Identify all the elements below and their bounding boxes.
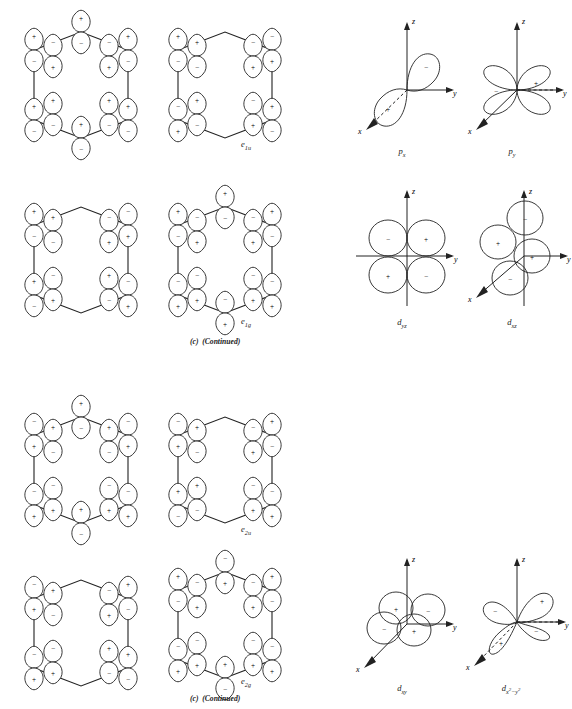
svg-text:+: + — [195, 39, 199, 47]
p-orbital-upper-right-outer: + − — [263, 203, 281, 247]
svg-text:−: − — [32, 651, 36, 659]
svg-text:+: + — [176, 668, 180, 676]
ao-label-py: py — [482, 146, 542, 158]
svg-text:−: − — [251, 579, 255, 587]
svg-text:+: + — [176, 128, 180, 136]
svg-text:−: − — [223, 555, 227, 563]
svg-text:+: + — [176, 33, 180, 41]
svg-text:+: + — [32, 606, 36, 614]
p-orbital-bottom: + − — [72, 501, 90, 545]
axis-label-z: z — [411, 17, 416, 26]
svg-text:+: + — [223, 661, 227, 669]
svg-text:+: + — [270, 573, 274, 581]
svg-text:+: + — [251, 449, 255, 457]
p-orbital-lower-right-outer: − + — [263, 273, 281, 317]
p-orbital-upper-right-inner: − + — [244, 574, 262, 618]
svg-text:−: − — [32, 303, 36, 311]
svg-text:+: + — [32, 33, 36, 41]
svg-text:−: − — [508, 276, 512, 284]
axis-label-y: y — [452, 89, 457, 98]
svg-text:−: − — [107, 449, 111, 457]
svg-text:−: − — [107, 587, 111, 595]
svg-text:−: − — [51, 122, 55, 130]
p-orbital-upper-right-inner: − + — [100, 582, 118, 626]
p-orbital-lower-right-outer: − + — [119, 273, 137, 317]
svg-text:−: − — [126, 676, 130, 684]
axis-label-z: z — [521, 17, 526, 26]
svg-text:−: − — [51, 272, 55, 280]
svg-text:+: + — [386, 273, 390, 281]
svg-text:+: + — [534, 80, 538, 88]
svg-text:+: + — [223, 580, 227, 588]
p-orbital-upper-left-inner: + − — [44, 209, 62, 253]
axis-label-z: z — [521, 555, 526, 564]
p-orbital-lower-left-outer: + − — [25, 98, 43, 142]
p-orbital-upper-right-outer: − + — [119, 203, 137, 247]
svg-text:+: + — [540, 598, 544, 606]
svg-text:+: + — [270, 418, 274, 426]
axis-label-x: x — [465, 663, 470, 672]
svg-text:−: − — [126, 58, 130, 66]
svg-text:+: + — [176, 573, 180, 581]
ao-label-dyz: dyz — [372, 317, 432, 329]
p-orbital-lower-right-outer: + − — [263, 98, 281, 142]
svg-text:−: − — [251, 214, 255, 222]
p-orbital-upper-right-outer: + − — [263, 413, 281, 457]
p-orbital-lower-left-inner: + − — [188, 92, 206, 136]
svg-text:−: − — [32, 488, 36, 496]
p-orbital-top: + − — [216, 185, 234, 229]
svg-text:−: − — [107, 297, 111, 305]
svg-text:−: − — [534, 628, 538, 636]
svg-text:−: − — [51, 645, 55, 653]
svg-text:−: − — [195, 637, 199, 645]
p-orbital-upper-right-inner: − + — [244, 209, 262, 253]
svg-text:+: + — [126, 651, 130, 659]
svg-text:+: + — [223, 190, 227, 198]
svg-text:−: − — [426, 608, 430, 616]
p-orbital-upper-left-inner: − + — [188, 209, 206, 253]
svg-text:−: − — [107, 214, 111, 222]
svg-text:+: + — [107, 239, 111, 247]
svg-text:−: − — [126, 208, 130, 216]
svg-text:−: − — [386, 236, 390, 244]
svg-text:+: + — [195, 604, 199, 612]
p-orbital-lower-left-inner: − + — [44, 477, 62, 521]
axis-label-z: z — [528, 187, 533, 196]
svg-text:−: − — [195, 507, 199, 515]
sign-plus: + — [79, 15, 83, 23]
p-orbital-lower-left-inner: − + — [44, 267, 62, 311]
mo-diagram-e1g-a: + − + − − + − + — [6, 183, 156, 343]
svg-text:−: − — [424, 64, 428, 72]
sign-minus: − — [79, 40, 83, 48]
svg-text:−: − — [126, 128, 130, 136]
svg-text:+: + — [251, 604, 255, 612]
p-orbital-lower-right-inner: + − — [100, 92, 118, 136]
svg-text:+: + — [126, 303, 130, 311]
p-orbital-lower-right-inner: − + — [244, 632, 262, 676]
svg-text:+: + — [32, 208, 36, 216]
p-orbital-lower-left-outer: − + — [169, 98, 187, 142]
svg-text:+: + — [270, 668, 274, 676]
mo-label-e1g: e1g — [216, 316, 276, 328]
svg-text:−: − — [126, 278, 130, 286]
svg-text:+: + — [126, 33, 130, 41]
svg-text:−: − — [270, 643, 274, 651]
svg-text:+: + — [107, 272, 111, 280]
p-orbital-upper-right-outer: − + — [119, 413, 137, 457]
p-orbital-lower-right-outer: + − — [119, 98, 137, 142]
ao-label-dx2y2: dx2−y2 — [476, 683, 546, 695]
svg-text:−: − — [251, 97, 255, 105]
svg-text:−: − — [51, 612, 55, 620]
svg-text:+: + — [530, 254, 534, 262]
mo-diagram-e2g-a: − + + − + − − + — [6, 556, 156, 709]
p-orbital-lower-right-inner: − + — [244, 92, 262, 136]
p-orbital-upper-left-inner: − + — [188, 574, 206, 618]
svg-text:−: − — [195, 579, 199, 587]
ao-diagram-dx2y2: + − + − z y x — [462, 552, 572, 677]
ao-diagram-px: − + z y x — [352, 14, 457, 139]
svg-text:−: − — [270, 233, 274, 241]
p-orbital-upper-left-inner: + − — [44, 582, 62, 626]
svg-text:+: + — [79, 121, 83, 129]
p-orbital-top: + − — [72, 10, 90, 54]
